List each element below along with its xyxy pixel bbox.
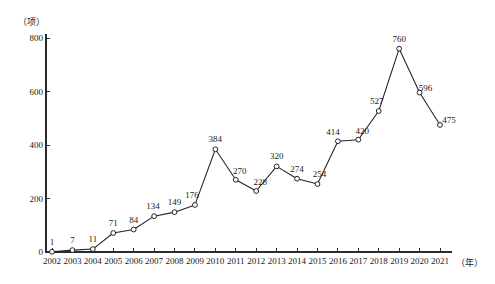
data-point-marker: [90, 247, 95, 252]
x-tick-label: 2006: [125, 256, 144, 266]
data-point-marker: [172, 210, 177, 215]
data-point-marker: [376, 109, 381, 114]
data-point-label: 1: [50, 237, 55, 247]
x-tick-label: 2016: [329, 256, 348, 266]
x-tick-label: 2014: [288, 256, 307, 266]
data-point-label: 527: [370, 96, 384, 106]
data-point-label: 11: [89, 234, 98, 244]
data-point-marker: [213, 147, 218, 152]
x-axis-ticks: 2002200320042005200620072008200920102011…: [43, 248, 449, 266]
x-tick-label: 2017: [349, 256, 368, 266]
data-point-labels: 1711718413414917638427022832027425441442…: [50, 34, 457, 247]
data-point-marker: [70, 248, 75, 253]
data-point-label: 475: [442, 115, 456, 125]
data-point-label: 420: [356, 126, 370, 136]
data-point-label: 149: [168, 197, 182, 207]
x-tick-label: 2003: [63, 256, 82, 266]
x-tick-label: 2021: [431, 256, 449, 266]
y-tick-label: 800: [30, 33, 44, 43]
x-tick-label: 2009: [186, 256, 205, 266]
data-point-label: 176: [185, 190, 199, 200]
data-point-marker: [152, 214, 157, 219]
y-tick-label: 200: [30, 194, 44, 204]
chart-canvas: 0200400600800 20022003200420052006200720…: [0, 0, 495, 284]
axes: [46, 34, 452, 252]
data-point-label: 7: [70, 235, 75, 245]
data-point-marker: [254, 189, 259, 194]
data-point-marker: [233, 177, 238, 182]
data-point-marker: [315, 182, 320, 187]
x-tick-label: 2004: [84, 256, 103, 266]
data-point-marker: [335, 139, 340, 144]
data-point-label: 134: [146, 201, 160, 211]
x-tick-label: 2007: [145, 256, 164, 266]
y-axis-ticks: 0200400600800: [30, 33, 51, 257]
x-tick-label: 2010: [206, 256, 225, 266]
data-point-marker: [111, 231, 116, 236]
data-point-label: 71: [109, 218, 118, 228]
data-point-label: 274: [290, 164, 304, 174]
data-point-label: 84: [129, 215, 139, 225]
y-axis-unit-label: （项）: [18, 17, 45, 27]
y-tick-label: 400: [30, 140, 44, 150]
data-point-label: 320: [270, 151, 284, 161]
x-axis-unit-label: （年）: [456, 257, 483, 268]
data-point-marker: [50, 249, 55, 254]
data-point-marker: [356, 137, 361, 142]
x-tick-label: 2008: [166, 256, 185, 266]
axis-lines: [46, 34, 452, 252]
y-tick-label: 600: [30, 87, 44, 97]
x-tick-label: 2002: [43, 256, 61, 266]
x-tick-label: 2013: [268, 256, 287, 266]
x-tick-label: 2019: [390, 256, 409, 266]
data-point-label: 414: [326, 127, 340, 137]
x-tick-label: 2018: [370, 256, 389, 266]
x-tick-label: 2012: [247, 256, 265, 266]
data-point-label: 596: [419, 83, 433, 93]
data-point-marker: [131, 227, 136, 232]
x-tick-label: 2020: [411, 256, 430, 266]
line-chart: 0200400600800 20022003200420052006200720…: [0, 0, 495, 284]
data-point-label: 228: [253, 177, 267, 187]
x-tick-label: 2005: [104, 256, 123, 266]
data-point-marker: [397, 46, 402, 51]
data-point-label: 254: [313, 169, 327, 179]
data-point-marker: [274, 164, 279, 169]
x-tick-label: 2011: [227, 256, 245, 266]
x-tick-label: 2015: [308, 256, 327, 266]
data-point-label: 270: [233, 166, 247, 176]
data-point-label: 384: [209, 134, 223, 144]
data-point-marker: [295, 176, 300, 181]
data-point-label: 760: [392, 34, 406, 44]
data-point-marker: [193, 203, 198, 208]
